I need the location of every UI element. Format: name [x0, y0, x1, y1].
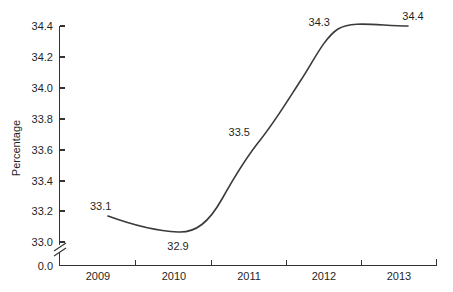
x-tick-label-2011: 2011 — [237, 270, 261, 282]
data-series-line — [108, 24, 408, 232]
data-label-2012: 34.3 — [309, 16, 330, 28]
y-tick-label-33-8: 33.8 — [32, 113, 53, 125]
data-label-2009: 33.1 — [90, 200, 111, 212]
y-tick-label-0-0: 0.0 — [38, 260, 53, 272]
y-tick-label-33-0: 33.0 — [32, 236, 53, 248]
y-tick-label-33-6: 33.6 — [32, 144, 53, 156]
line-chart: Percentage 34.4 34.2 34.0 3 — [0, 0, 453, 292]
x-tick-label-2013: 2013 — [387, 270, 411, 282]
y-tick-label-34-2: 34.2 — [32, 51, 53, 63]
data-label-2011: 33.5 — [229, 126, 250, 138]
y-tick-label-34-0: 34.0 — [32, 82, 53, 94]
y-tick-label-33-4: 33.4 — [32, 175, 53, 187]
x-tick-marks — [136, 260, 362, 266]
data-label-2010: 32.9 — [167, 240, 188, 252]
x-tick-label-2010: 2010 — [162, 270, 186, 282]
y-tick-label-33-2: 33.2 — [32, 205, 53, 217]
x-tick-label-2009: 2009 — [86, 270, 110, 282]
y-tick-marks — [60, 26, 66, 266]
y-tick-label-34-4: 34.4 — [32, 20, 53, 32]
chart-canvas: Percentage 34.4 34.2 34.0 3 — [0, 0, 453, 292]
data-label-2013: 34.4 — [402, 10, 423, 22]
y-axis-title: Percentage — [10, 120, 22, 176]
x-tick-label-2012: 2012 — [312, 270, 336, 282]
